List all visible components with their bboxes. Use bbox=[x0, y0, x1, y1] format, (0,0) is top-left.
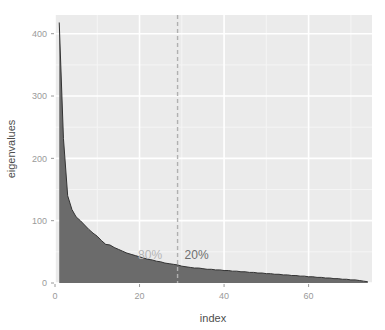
y-tick-label: 300 bbox=[32, 91, 47, 101]
y-tick-label: 200 bbox=[32, 154, 47, 164]
x-tick-label: 40 bbox=[219, 291, 229, 301]
chart-canvas: 80% 20% 0204060 0100200300400 index eige… bbox=[0, 0, 385, 330]
x-tick-label: 60 bbox=[304, 291, 314, 301]
y-tick-label: 400 bbox=[32, 29, 47, 39]
y-tick-label: 100 bbox=[32, 216, 47, 226]
x-tick-label: 0 bbox=[52, 291, 57, 301]
scree-plot-figure: 80% 20% 0204060 0100200300400 index eige… bbox=[0, 0, 385, 330]
y-tick-label: 0 bbox=[42, 278, 47, 288]
annotation-80-percent: 80% bbox=[138, 248, 162, 262]
x-axis-title: index bbox=[200, 312, 227, 324]
x-tick-label: 20 bbox=[135, 291, 145, 301]
annotation-20-percent: 20% bbox=[185, 248, 209, 262]
y-axis-title: eigenvalues bbox=[5, 119, 17, 178]
